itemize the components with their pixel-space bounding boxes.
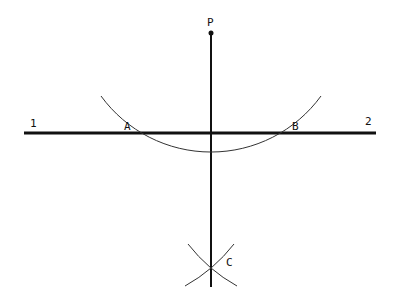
label-a: A [124, 120, 131, 133]
label-c: C [226, 256, 233, 269]
label-line-2: 2 [365, 115, 372, 128]
label-p: P [207, 16, 214, 29]
label-line-1: 1 [30, 117, 37, 130]
label-b: B [292, 120, 299, 133]
point-p [209, 31, 214, 36]
perpendicular-construction-diagram: P A B C 1 2 [0, 0, 408, 294]
